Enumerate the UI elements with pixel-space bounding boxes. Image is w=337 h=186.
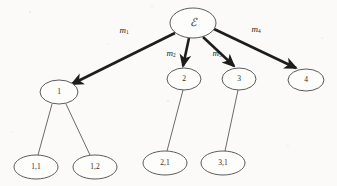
node-4[interactable]: 4 [288, 69, 324, 91]
node-1-2[interactable]: 1,2 [73, 155, 117, 179]
tree-diagram-svg: ℰ12341,11,22,13,1 m1m2m3m4 [0, 0, 337, 186]
node-1-1-label: 1,1 [31, 162, 41, 171]
edge-root-to-1 [72, 33, 175, 84]
edge-root-to-4 [214, 29, 296, 68]
node-4-label: 4 [304, 75, 308, 84]
node-3-1[interactable]: 3,1 [201, 151, 245, 175]
node-1-1[interactable]: 1,1 [14, 155, 58, 179]
edge-root-to-2 [183, 38, 189, 66]
paper-specks [11, 5, 322, 146]
edge-label-m1: m1 [119, 25, 129, 35]
node-1-2-label: 1,2 [90, 162, 100, 171]
node-3-label: 3 [237, 74, 241, 83]
node-2-1-label: 2,1 [160, 158, 170, 167]
node-3[interactable]: 3 [222, 68, 256, 90]
node-3-1-label: 3,1 [218, 158, 228, 167]
edge-2-to-2-1 [167, 90, 183, 151]
diagram-canvas: ℰ12341,11,22,13,1 m1m2m3m4 [0, 0, 337, 186]
edge-3-to-3-1 [225, 90, 238, 151]
root-node-epsilon-label: ℰ [190, 16, 198, 28]
node-1-label: 1 [57, 87, 61, 96]
node-2-1[interactable]: 2,1 [143, 151, 187, 175]
root-node-epsilon[interactable]: ℰ [170, 8, 216, 38]
edge-label-m3: m3 [212, 48, 222, 58]
node-2[interactable]: 2 [167, 68, 201, 90]
edge-1-to-1-1 [38, 104, 52, 155]
edge-1-to-1-2 [66, 104, 90, 155]
nodes-group: ℰ12341,11,22,13,1 [14, 8, 324, 179]
node-1[interactable]: 1 [40, 80, 78, 104]
edge-label-m2: m2 [166, 48, 176, 58]
node-2-label: 2 [182, 74, 186, 83]
edge-label-m4: m4 [251, 24, 261, 34]
